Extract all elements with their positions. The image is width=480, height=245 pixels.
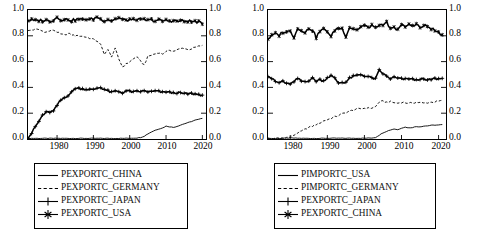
- legend-key-solid-line: [35, 168, 61, 181]
- legend-item-2: PEXPORTC_JAPAN: [275, 194, 435, 207]
- y-tick-right-1_0: 1.0: [209, 4, 235, 14]
- figure-root: 1.0 0.8 0.6 0.4 0.2 0.0 1.0 0.8 0.6 0.4 …: [0, 0, 480, 245]
- x-tick-2020: 2020: [426, 142, 456, 152]
- x-tick-2010: 2010: [389, 142, 419, 152]
- legend-label-2: PEXPORTC_JAPAN: [61, 195, 141, 206]
- y-tick-left-0_0: 0.0: [0, 133, 24, 143]
- y-tick-right-0_4: 0.4: [209, 81, 235, 91]
- legend-key-star-marker-line: [275, 207, 301, 220]
- y-tick-left-0_6: 0.6: [0, 55, 24, 65]
- legend-right: PIMPORTC_USA PIMPORTC_GERMANY PEXPORTC_J…: [274, 163, 436, 229]
- y-tick-left-0_4: 0.4: [240, 81, 264, 91]
- y-tick-right-1_0: 1.0: [449, 4, 475, 14]
- legend-key-plus-marker-line: [275, 194, 301, 207]
- legend-key-solid-line: [275, 168, 301, 181]
- y-tick-right-0_4: 0.4: [449, 81, 475, 91]
- y-tick-left-0_8: 0.8: [240, 29, 264, 39]
- legend-item-1: PIMPORTC_GERMANY: [275, 181, 435, 194]
- y-tick-left-0_8: 0.8: [0, 29, 24, 39]
- legend-item-3: PEXPORTC_CHINA: [275, 207, 435, 220]
- y-tick-left-0_4: 0.4: [0, 81, 24, 91]
- y-tick-right-0_2: 0.2: [209, 107, 235, 117]
- chart-panel-right: 1.0 0.8 0.6 0.4 0.2 0.0 1.0 0.8 0.6 0.4 …: [240, 0, 480, 245]
- plot-area-left: [27, 9, 207, 140]
- plot-lines-left: [28, 10, 206, 139]
- legend-label-3: PEXPORTC_USA: [61, 208, 131, 219]
- legend-item-2: PEXPORTC_JAPAN: [35, 194, 187, 207]
- legend-label-0: PIMPORTC_USA: [301, 169, 370, 180]
- y-tick-right-0_2: 0.2: [449, 107, 475, 117]
- x-tick-1990: 1990: [80, 142, 110, 152]
- legend-item-0: PIMPORTC_USA: [275, 168, 435, 181]
- legend-left: PEXPORTC_CHINA PEXPORTC_GERMANY PEXPORTC…: [34, 163, 188, 229]
- x-tick-2020: 2020: [188, 142, 218, 152]
- legend-item-3: PEXPORTC_USA: [35, 207, 187, 220]
- x-tick-2000: 2000: [116, 142, 146, 152]
- y-tick-right-0_6: 0.6: [209, 55, 235, 65]
- legend-key-dashed-line: [275, 181, 301, 194]
- y-tick-right-0_6: 0.6: [449, 55, 475, 65]
- x-tick-1990: 1990: [315, 142, 345, 152]
- x-tick-2010: 2010: [152, 142, 182, 152]
- chart-panel-left: 1.0 0.8 0.6 0.4 0.2 0.0 1.0 0.8 0.6 0.4 …: [0, 0, 240, 245]
- plot-lines-right: [268, 10, 446, 139]
- y-tick-right-0_8: 0.8: [209, 29, 235, 39]
- y-tick-left-0_2: 0.2: [240, 107, 264, 117]
- legend-item-1: PEXPORTC_GERMANY: [35, 181, 187, 194]
- y-tick-left-0_6: 0.6: [240, 55, 264, 65]
- y-tick-left-1_0: 1.0: [0, 4, 24, 14]
- plot-area-right: [267, 9, 447, 140]
- x-tick-1980: 1980: [278, 142, 308, 152]
- y-tick-left-1_0: 1.0: [240, 4, 264, 14]
- y-tick-left-0_2: 0.2: [0, 107, 24, 117]
- legend-label-1: PIMPORTC_GERMANY: [301, 182, 399, 193]
- legend-label-1: PEXPORTC_GERMANY: [61, 182, 160, 193]
- legend-key-dashed-line: [35, 181, 61, 194]
- legend-key-star-marker-line: [35, 207, 61, 220]
- legend-label-2: PEXPORTC_JAPAN: [301, 195, 381, 206]
- legend-item-0: PEXPORTC_CHINA: [35, 168, 187, 181]
- x-tick-2000: 2000: [352, 142, 382, 152]
- legend-key-plus-marker-line: [35, 194, 61, 207]
- y-tick-left-0_0: 0.0: [240, 133, 264, 143]
- legend-label-3: PEXPORTC_CHINA: [301, 208, 382, 219]
- x-tick-1980: 1980: [44, 142, 74, 152]
- y-tick-right-0_8: 0.8: [449, 29, 475, 39]
- legend-label-0: PEXPORTC_CHINA: [61, 169, 142, 180]
